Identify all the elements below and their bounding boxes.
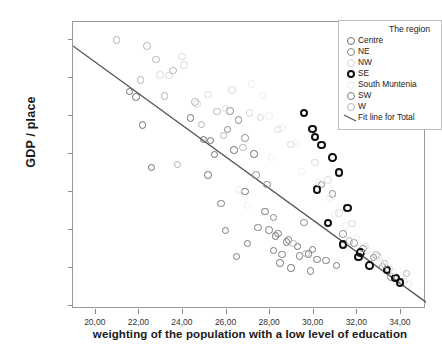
data-point [261,208,269,216]
circle-marker-icon [347,103,355,111]
legend-item-se[interactable]: SE [343,68,438,79]
legend-item-label: NW [358,57,372,68]
data-point [180,61,188,69]
data-point [396,278,405,287]
data-point [137,76,145,84]
data-point [211,151,219,159]
data-point [169,67,177,75]
data-point [313,256,321,264]
x-tick-label: 32,00 [334,317,378,327]
legend-entries: CentreNENWSESouth MunteniaSWWFit line fo… [343,35,438,123]
legend-item-centre[interactable]: Centre [343,35,438,46]
data-point [287,264,295,272]
legend-item-w[interactable]: W [343,101,438,112]
data-point [270,214,278,222]
data-point [244,202,252,210]
circle-marker-icon [347,81,355,89]
data-point [152,56,160,64]
legend-item-sw[interactable]: SW [343,90,438,101]
legend-item-label: SW [358,90,372,101]
legend-item-south-muntenia[interactable]: South Muntenia [343,79,438,90]
data-point [313,185,322,194]
data-point [335,168,344,177]
data-point [248,80,256,88]
data-point [161,92,169,100]
legend-item-fit-line-for-total[interactable]: Fit line for Total [343,112,438,123]
legend-title: The region [343,24,438,34]
data-point [148,164,156,172]
data-point [178,53,186,61]
data-point [311,159,319,167]
data-point [132,93,140,101]
data-point [220,132,228,140]
data-point [403,270,411,278]
x-tick-label: 28,00 [247,317,291,327]
x-tick [226,309,227,314]
data-point [328,153,337,162]
data-point [381,260,389,268]
data-point [113,36,121,44]
data-point [307,267,315,275]
data-point [365,261,374,270]
data-point [263,181,271,189]
data-point [317,141,326,150]
x-tick [95,309,96,314]
data-point [274,230,282,238]
data-point [308,125,317,134]
circle-marker-icon [347,92,355,100]
data-point [363,247,371,255]
data-point [326,194,334,202]
x-tick [269,309,270,314]
fit-line-swatch-icon [343,113,358,122]
data-point [372,251,380,259]
data-point [265,226,273,234]
data-point [298,168,306,176]
data-point [139,121,147,129]
legend-item-label: NE [358,46,370,57]
data-point [233,253,241,261]
y-axis-title: GDP / place [24,67,38,197]
data-point [222,227,230,235]
x-tick [356,309,357,314]
legend-item-label: W [358,101,366,112]
legend-item-ne[interactable]: NE [343,46,438,57]
data-point [259,92,267,100]
data-point [278,124,286,132]
data-point [235,116,243,124]
data-point [309,246,317,254]
x-tick-label: 24,00 [160,317,204,327]
data-point [252,171,260,179]
data-point [292,139,300,147]
data-point [276,259,284,267]
data-point [228,86,236,94]
x-tick [182,309,183,314]
circle-marker-icon [347,48,355,56]
data-point [239,144,247,152]
legend-item-label: South Muntenia [358,79,417,90]
x-tick-label: 30,00 [291,317,335,327]
circle-marker-icon [347,59,355,67]
data-point [213,108,221,116]
circle-marker-icon [343,70,358,78]
data-point [241,188,249,196]
scatter-chart-figure: GDP / place weighting of the population … [0,0,442,350]
legend-item-label: Fit line for Total [358,112,415,123]
x-tick [313,309,314,314]
x-tick [400,309,401,314]
data-point [300,109,309,118]
x-tick-label: 26,00 [204,317,248,327]
data-point [302,250,310,258]
data-point [324,219,333,228]
x-tick-label: 22,00 [116,317,160,327]
x-axis-title: weighting of the population with a low l… [60,328,440,340]
data-point [265,112,273,120]
circle-marker-icon [343,81,358,89]
legend-item-nw[interactable]: NW [343,57,438,68]
data-point [343,204,352,213]
data-point [246,109,254,117]
legend-item-label: Centre [358,35,383,46]
data-point [405,280,413,288]
data-point [342,222,350,230]
data-point [241,134,249,142]
data-point [339,230,347,238]
